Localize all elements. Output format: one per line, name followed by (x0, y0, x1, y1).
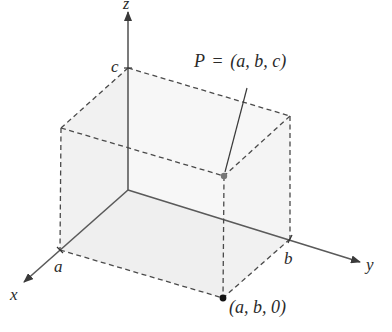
coordinate-box-diagram: z y x c a b P = (a, b, c) (a, b, 0) (0, 0, 392, 332)
tick-label-a: a (54, 257, 63, 276)
point-P-label: P = (a, b, c) (193, 51, 286, 72)
tick-label-b: b (284, 249, 293, 268)
point-foot (220, 295, 227, 302)
point-P-coords: (a, b, c) (230, 51, 286, 72)
tick-label-c: c (111, 57, 119, 76)
point-foot-label: (a, b, 0) (229, 297, 286, 318)
point-P-name: P (193, 51, 205, 71)
x-axis-label: x (9, 285, 18, 304)
z-axis-label: z (122, 0, 130, 12)
y-axis-label: y (364, 255, 374, 274)
point-P (221, 173, 227, 179)
box-faces (60, 68, 290, 298)
point-P-equals: = (213, 51, 223, 71)
